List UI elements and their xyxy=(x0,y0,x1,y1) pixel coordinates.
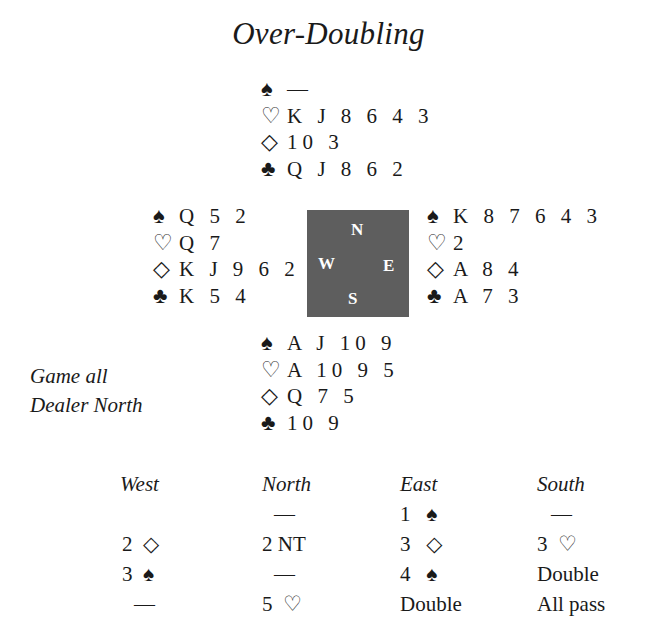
west-hearts: ♡Q 7 xyxy=(153,230,300,257)
bid-level: 2 xyxy=(122,532,133,556)
west-clubs-cards: K 5 4 xyxy=(179,284,251,308)
auction-bid: 5 ♡ xyxy=(262,592,412,622)
auction-bid: 2 ◇ xyxy=(120,532,270,562)
east-clubs: ♣A 7 3 xyxy=(427,283,602,310)
auction-bid: — xyxy=(537,502,657,532)
bid-level: 3 xyxy=(537,532,548,556)
club-icon: ♣ xyxy=(261,156,287,183)
club-icon: ♣ xyxy=(427,283,453,310)
auction-column-south: South — 3 ♡ Double All pass xyxy=(537,472,657,622)
south-diamonds-cards: Q 7 5 xyxy=(287,384,359,408)
west-hearts-cards: Q 7 xyxy=(179,231,225,255)
south-hearts: ♡A 10 9 5 xyxy=(261,357,399,384)
auction-column-east: East 1 ♠ 3 ◇ 4 ♠ Double xyxy=(400,472,550,622)
vulnerability-label: Game all xyxy=(30,362,143,391)
heart-icon: ♡ xyxy=(558,532,577,556)
auction-bid: — xyxy=(120,592,270,622)
auction-header-east: East xyxy=(400,472,550,502)
auction-bid: 1 ♠ xyxy=(400,502,550,532)
auction-header-north: North xyxy=(262,472,412,502)
diamond-icon: ◇ xyxy=(143,532,159,556)
auction-bid: 3 ♠ xyxy=(120,562,270,592)
heart-icon: ♡ xyxy=(153,230,179,257)
compass-east-label: E xyxy=(383,256,394,276)
heart-icon: ♡ xyxy=(261,103,287,130)
auction-column-north: North — 2 NT — 5 ♡ xyxy=(262,472,412,622)
south-spades: ♠A J 10 9 xyxy=(261,330,399,357)
east-hearts: ♡2 xyxy=(427,230,602,257)
auction-header-west: West xyxy=(120,472,270,502)
east-diamonds-cards: A 8 4 xyxy=(453,257,524,281)
north-spades: ♠— xyxy=(261,76,434,103)
compass-north-label: N xyxy=(351,220,363,240)
spade-icon: ♠ xyxy=(143,562,154,586)
diagram-title: Over-Doubling xyxy=(0,16,657,52)
bid-level: 3 xyxy=(400,532,411,556)
bid-text: — xyxy=(274,502,295,526)
auction-column-west: West 2 ◇ 3 ♠ — xyxy=(120,472,270,622)
spade-icon: ♠ xyxy=(261,76,287,103)
spade-icon: ♠ xyxy=(427,203,453,230)
auction-bid: — xyxy=(262,562,412,592)
diamond-icon: ◇ xyxy=(261,383,287,410)
north-diamonds-cards: 10 3 xyxy=(287,130,344,154)
auction-bid: Double xyxy=(400,592,550,622)
auction-bid: 3 ◇ xyxy=(400,532,550,562)
east-clubs-cards: A 7 3 xyxy=(453,284,524,308)
auction-header-south: South xyxy=(537,472,657,502)
bid-text: — xyxy=(274,562,295,586)
west-clubs: ♣K 5 4 xyxy=(153,283,300,310)
north-clubs: ♣Q J 8 6 2 xyxy=(261,156,434,183)
north-hearts: ♡K J 8 6 4 3 xyxy=(261,103,434,130)
south-hearts-cards: A 10 9 5 xyxy=(287,358,399,382)
club-icon: ♣ xyxy=(153,283,179,310)
west-diamonds: ◇K J 9 6 2 xyxy=(153,256,300,283)
deal-conditions: Game all Dealer North xyxy=(30,362,143,420)
west-spades-cards: Q 5 2 xyxy=(179,204,251,228)
auction-bid xyxy=(120,502,270,532)
compass-west-label: W xyxy=(318,254,335,274)
diamond-icon: ◇ xyxy=(426,532,442,556)
south-clubs-cards: 10 9 xyxy=(287,411,344,435)
bid-level: 1 xyxy=(400,502,411,526)
club-icon: ♣ xyxy=(261,410,287,437)
compass-table: N W E S xyxy=(307,210,409,317)
bid-level: 4 xyxy=(400,562,411,586)
heart-icon: ♡ xyxy=(261,357,287,384)
spade-icon: ♠ xyxy=(426,562,437,586)
east-diamonds: ◇A 8 4 xyxy=(427,256,602,283)
west-diamonds-cards: K J 9 6 2 xyxy=(179,257,300,281)
south-spades-cards: A J 10 9 xyxy=(287,331,396,355)
auction-bid: All pass xyxy=(537,592,657,622)
bid-text: — xyxy=(551,502,572,526)
south-clubs: ♣10 9 xyxy=(261,410,399,437)
north-spades-cards: — xyxy=(287,77,313,101)
east-hand: ♠K 8 7 6 4 3 ♡2 ◇A 8 4 ♣A 7 3 xyxy=(427,203,602,309)
bid-level: 3 xyxy=(122,562,133,586)
east-spades: ♠K 8 7 6 4 3 xyxy=(427,203,602,230)
spade-icon: ♠ xyxy=(261,330,287,357)
heart-icon: ♡ xyxy=(283,592,302,616)
bid-level: 5 xyxy=(262,592,273,616)
auction-bid: Double xyxy=(537,562,657,592)
east-hearts-cards: 2 xyxy=(453,231,469,255)
north-hearts-cards: K J 8 6 4 3 xyxy=(287,104,434,128)
bid-text: 2 NT xyxy=(262,532,306,556)
bid-text: Double xyxy=(537,562,599,586)
north-clubs-cards: Q J 8 6 2 xyxy=(287,157,408,181)
bid-text: All pass xyxy=(537,592,605,616)
spade-icon: ♠ xyxy=(153,203,179,230)
diamond-icon: ◇ xyxy=(261,129,287,156)
west-hand: ♠Q 5 2 ♡Q 7 ◇K J 9 6 2 ♣K 5 4 xyxy=(153,203,300,309)
auction-bid: — xyxy=(262,502,412,532)
dealer-label: Dealer North xyxy=(30,391,143,420)
auction-bid: 3 ♡ xyxy=(537,532,657,562)
north-hand: ♠— ♡K J 8 6 4 3 ◇10 3 ♣Q J 8 6 2 xyxy=(261,76,434,182)
auction-bid: 2 NT xyxy=(262,532,412,562)
diamond-icon: ◇ xyxy=(427,256,453,283)
south-hand: ♠A J 10 9 ♡A 10 9 5 ◇Q 7 5 ♣10 9 xyxy=(261,330,399,436)
bid-text: Double xyxy=(400,592,462,616)
bid-text: — xyxy=(134,592,155,616)
east-spades-cards: K 8 7 6 4 3 xyxy=(453,204,602,228)
compass-south-label: S xyxy=(348,289,357,309)
